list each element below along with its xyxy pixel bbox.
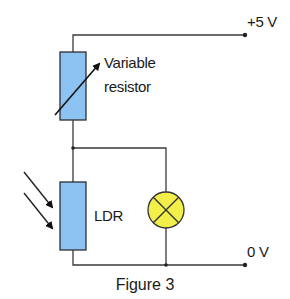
ground-rail-wire: [73, 250, 245, 265]
positive-terminal-dot: [243, 33, 247, 37]
middle-junction-dot: [71, 146, 75, 150]
positive-terminal-label: +5 V: [247, 13, 277, 30]
light-arrow-icon-1: [24, 172, 52, 207]
figure-caption: Figure 3: [116, 276, 175, 293]
positive-rail-wire: [73, 35, 245, 52]
circuit-diagram: +5 V Variable resistor LDR 0 V Figure 3: [0, 0, 290, 299]
lamp-icon: [148, 192, 184, 228]
variable-resistor-label-line1: Variable: [104, 54, 156, 71]
ground-terminal-label: 0 V: [247, 243, 269, 260]
ldr-body: [60, 182, 86, 250]
light-arrow-icon-2: [24, 193, 52, 228]
ldr-label: LDR: [94, 207, 124, 224]
ground-junction-dot: [164, 263, 168, 267]
ground-terminal-dot: [243, 263, 247, 267]
variable-resistor-body: [60, 52, 86, 120]
lamp-upper-wire: [73, 148, 166, 192]
variable-resistor-label-line2: resistor: [104, 78, 151, 95]
